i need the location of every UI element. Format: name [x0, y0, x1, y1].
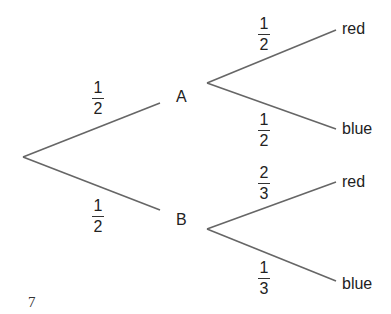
- page-number: 7: [28, 294, 36, 311]
- fraction-bar: [258, 278, 270, 279]
- fraction-bar: [258, 34, 270, 35]
- leaf-label-B-red: red: [342, 174, 365, 190]
- denominator: 3: [260, 281, 269, 297]
- probability-root-B: 1 2: [90, 198, 106, 235]
- probability-B-red: 2 3: [256, 165, 272, 202]
- numerator: 1: [260, 16, 269, 32]
- probability-root-A: 1 2: [90, 80, 106, 117]
- tree-lines: [0, 0, 391, 314]
- denominator: 2: [260, 37, 269, 53]
- fraction-bar: [258, 183, 270, 184]
- numerator: 1: [94, 198, 103, 214]
- denominator: 2: [94, 101, 103, 117]
- numerator: 1: [260, 112, 269, 128]
- node-label-B: B: [176, 212, 187, 228]
- numerator: 2: [260, 165, 269, 181]
- node-label-A: A: [176, 89, 187, 105]
- probability-A-red: 1 2: [256, 16, 272, 53]
- probability-A-blue: 1 2: [256, 112, 272, 149]
- denominator: 2: [94, 219, 103, 235]
- leaf-label-A-red: red: [342, 21, 365, 37]
- numerator: 1: [94, 80, 103, 96]
- fraction-bar: [92, 98, 104, 99]
- fraction-bar: [258, 130, 270, 131]
- denominator: 2: [260, 133, 269, 149]
- probability-B-blue: 1 3: [256, 260, 272, 297]
- leaf-label-A-blue: blue: [342, 121, 372, 137]
- leaf-label-B-blue: blue: [342, 276, 372, 292]
- numerator: 1: [260, 260, 269, 276]
- denominator: 3: [260, 186, 269, 202]
- fraction-bar: [92, 216, 104, 217]
